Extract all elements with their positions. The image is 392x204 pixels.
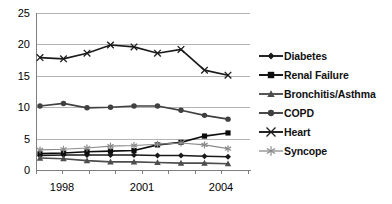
x-tick	[62, 170, 63, 174]
legend-item-heart[interactable]: Heart	[258, 122, 390, 141]
data-point-circle	[131, 103, 136, 108]
data-point-diamond	[202, 153, 208, 159]
data-point-circle	[268, 109, 274, 115]
x-tick	[115, 170, 116, 174]
data-point-square	[202, 133, 207, 138]
legend-marker-asterisk-icon	[258, 144, 284, 158]
data-point-square	[225, 130, 230, 135]
legend-label: Heart	[284, 126, 310, 138]
y-tick-label-0: 0	[0, 165, 30, 176]
legend-item-syncope[interactable]: Syncope	[258, 141, 390, 160]
y-axis-labels: 25 20 15 10 5 0	[0, 0, 32, 204]
x-tick	[89, 170, 90, 174]
legend-item-renal-failure[interactable]: Renal Failure	[258, 65, 390, 84]
legend-label: Syncope	[284, 145, 327, 157]
x-tick	[248, 170, 249, 174]
data-point-circle	[225, 116, 230, 121]
y-tick-label-15: 15	[0, 71, 30, 82]
x-tick-label-2001: 2001	[130, 181, 154, 193]
line-chart: 25 20 15 10 5 0 1998 2001 2004	[0, 0, 392, 204]
legend-marker-circle-icon	[258, 106, 284, 120]
legend-label: COPD	[284, 107, 314, 119]
y-tick-label-5: 5	[0, 134, 30, 145]
series-layer	[36, 13, 250, 170]
x-tick	[142, 170, 143, 174]
legend-label: Renal Failure	[284, 69, 349, 81]
legend-marker-cross-icon	[258, 125, 284, 139]
x-tick	[168, 170, 169, 174]
legend-marker-triangle-icon	[258, 87, 284, 101]
data-point-circle	[155, 103, 160, 108]
legend-item-copd[interactable]: COPD	[258, 103, 390, 122]
x-tick-label-1998: 1998	[50, 181, 74, 193]
data-point-circle	[84, 105, 89, 110]
chart-legend: Diabetes Renal Failure Bronchitis/Asthma…	[258, 46, 390, 160]
x-axis-line	[36, 170, 251, 171]
data-point-diamond	[155, 153, 161, 159]
data-point-circle	[178, 108, 183, 113]
legend-label: Diabetes	[284, 50, 327, 62]
data-point-diamond	[225, 154, 231, 160]
data-point-circle	[61, 101, 66, 106]
y-tick-label-25: 25	[0, 8, 30, 19]
x-tick	[36, 170, 37, 174]
series-heart	[37, 42, 232, 79]
legend-label: Bronchitis/Asthma	[284, 88, 376, 100]
data-point-diamond	[178, 153, 184, 159]
legend-item-diabetes[interactable]: Diabetes	[258, 46, 390, 65]
legend-marker-square-icon	[258, 68, 284, 82]
x-tick	[221, 170, 222, 174]
data-point-circle	[37, 103, 42, 108]
series-copd	[37, 101, 230, 122]
y-tick-label-10: 10	[0, 102, 30, 113]
x-tick	[195, 170, 196, 174]
legend-marker-diamond-icon	[258, 49, 284, 63]
data-point-circle	[108, 104, 113, 109]
data-point-diamond	[268, 52, 275, 59]
y-tick-label-20: 20	[0, 39, 30, 50]
legend-item-bronchitis-asthma[interactable]: Bronchitis/Asthma	[258, 84, 390, 103]
data-point-circle	[202, 113, 207, 118]
data-point-square	[268, 71, 274, 77]
x-tick-label-2004: 2004	[209, 181, 233, 193]
x-axis-labels: 1998 2001 2004	[0, 181, 260, 197]
